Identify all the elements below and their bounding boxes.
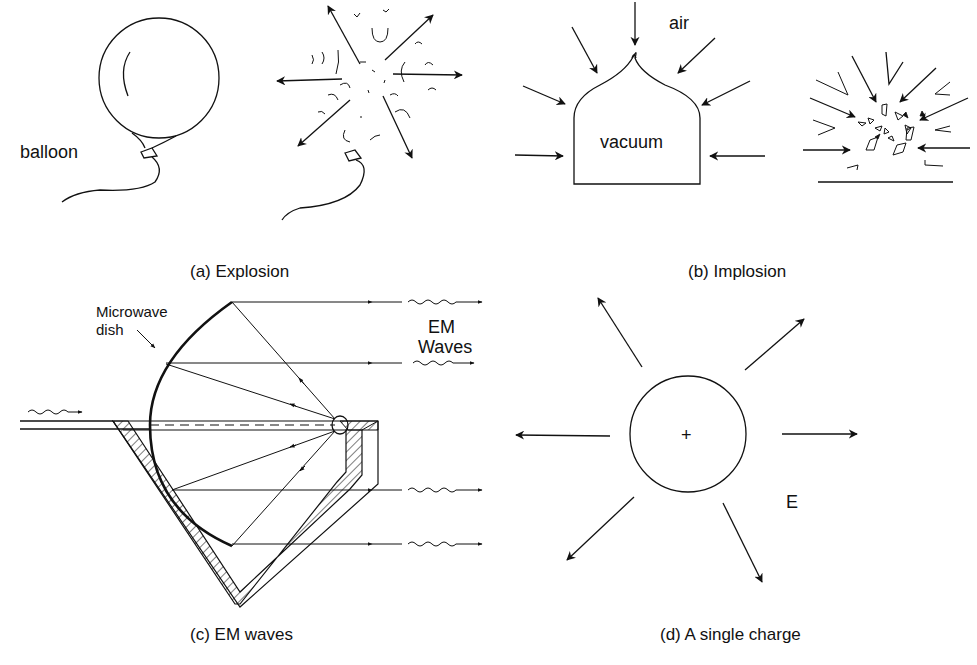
incoming-wave <box>28 410 82 414</box>
caption-single-charge: (d) A single charge <box>660 625 801 644</box>
field-label: E <box>786 492 798 512</box>
em-waves-label-line2: Waves <box>418 337 472 357</box>
charge-sign: + <box>681 425 692 445</box>
panel-explosion: balloon (a) Explosion <box>20 6 462 281</box>
panel-implosion: air vacuum (b) Implosion <box>515 2 970 281</box>
caption-explosion: (a) Explosion <box>190 262 289 281</box>
intact-balloon <box>62 18 219 202</box>
caption-em-waves: (c) EM waves <box>190 625 293 644</box>
vacuum-label: vacuum <box>600 132 663 152</box>
dish-label-line2: dish <box>96 321 124 338</box>
microwave-dish <box>150 302 232 546</box>
caption-implosion: (b) Implosion <box>688 262 786 281</box>
em-waves-label-line1: EM <box>428 317 455 337</box>
dish-pointer-arrow <box>137 330 155 348</box>
figure-canvas: balloon (a) Explosion <box>0 0 977 665</box>
balloon-label: balloon <box>20 142 78 162</box>
panel-single-charge: + E (d) A single charge <box>516 298 857 644</box>
imploded-fragments <box>803 52 970 182</box>
panel-em-waves: Microwave dish EM Waves (c) EM waves <box>20 300 482 644</box>
air-label: air <box>669 13 689 33</box>
bursting-balloon <box>277 6 462 220</box>
vacuum-container <box>574 53 700 184</box>
dish-label-line1: Microwave <box>96 303 168 320</box>
